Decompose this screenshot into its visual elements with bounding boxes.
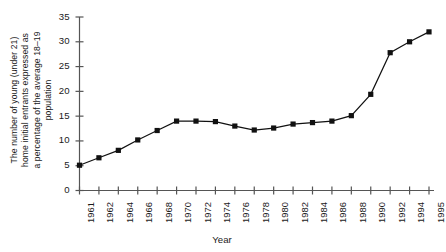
data-point-marker [426, 29, 431, 34]
data-point-marker [271, 125, 276, 130]
data-point-marker [77, 163, 82, 168]
data-point-marker [193, 119, 198, 124]
data-point-marker [310, 120, 315, 125]
data-series-markers [77, 29, 432, 168]
data-point-marker [135, 137, 140, 142]
data-series-line [80, 32, 430, 165]
x-axis-title: Year [0, 234, 444, 245]
axes [80, 17, 435, 191]
data-point-marker [232, 123, 237, 128]
data-point-marker [252, 127, 257, 132]
data-point-marker [407, 39, 412, 44]
data-point-marker [155, 128, 160, 133]
data-point-marker [174, 119, 179, 124]
data-point-marker [213, 119, 218, 124]
data-point-marker [329, 119, 334, 124]
data-point-marker [368, 92, 373, 97]
data-point-marker [388, 50, 393, 55]
data-point-marker [349, 113, 354, 118]
data-point-marker [116, 148, 121, 153]
data-point-marker [96, 155, 101, 160]
data-point-marker [290, 121, 295, 126]
